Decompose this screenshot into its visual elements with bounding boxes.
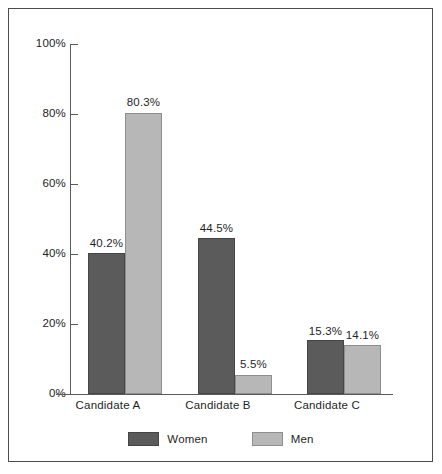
y-tick-label-40: 40% xyxy=(22,247,66,259)
legend-swatch-men-icon xyxy=(252,432,283,446)
chart-figure: 100% 80% 60% 40% 20% 0% 40.2% 80.3% 44.5… xyxy=(0,0,442,474)
legend-item-women[interactable]: Women xyxy=(128,432,207,446)
chart-legend: Women Men xyxy=(0,432,442,446)
x-axis-label-candidate-b: Candidate B xyxy=(163,399,273,411)
y-tick-label-60: 60% xyxy=(22,177,66,189)
y-tick-label-100: 100% xyxy=(22,37,66,49)
bar-value-men-candidate-b: 5.5% xyxy=(222,358,285,370)
plot-area: 40.2% 80.3% 44.5% 5.5% 15.3% 14.1% xyxy=(71,44,385,394)
bar-men-candidate-b[interactable] xyxy=(235,375,272,394)
bar-value-men-candidate-a: 80.3% xyxy=(112,96,175,108)
bar-men-candidate-c[interactable] xyxy=(344,345,381,394)
bar-women-candidate-b[interactable] xyxy=(198,238,235,394)
x-axis-label-candidate-a: Candidate A xyxy=(53,399,163,411)
bar-value-men-candidate-c: 14.1% xyxy=(331,329,394,341)
bar-women-candidate-c[interactable] xyxy=(307,340,344,394)
y-tick-label-0: 0% xyxy=(22,387,66,399)
legend-swatch-women-icon xyxy=(128,432,159,446)
y-tick-label-20: 20% xyxy=(22,317,66,329)
legend-item-men[interactable]: Men xyxy=(252,432,314,446)
bar-men-candidate-a[interactable] xyxy=(125,113,162,394)
bar-value-women-candidate-a: 40.2% xyxy=(75,237,138,249)
y-tick-label-80: 80% xyxy=(22,107,66,119)
bar-women-candidate-a[interactable] xyxy=(88,253,125,394)
x-axis-label-candidate-c: Candidate C xyxy=(272,399,382,411)
legend-label-men: Men xyxy=(291,433,314,445)
x-axis-line xyxy=(56,394,393,395)
bar-value-women-candidate-b: 44.5% xyxy=(185,222,248,234)
legend-label-women: Women xyxy=(167,433,207,445)
